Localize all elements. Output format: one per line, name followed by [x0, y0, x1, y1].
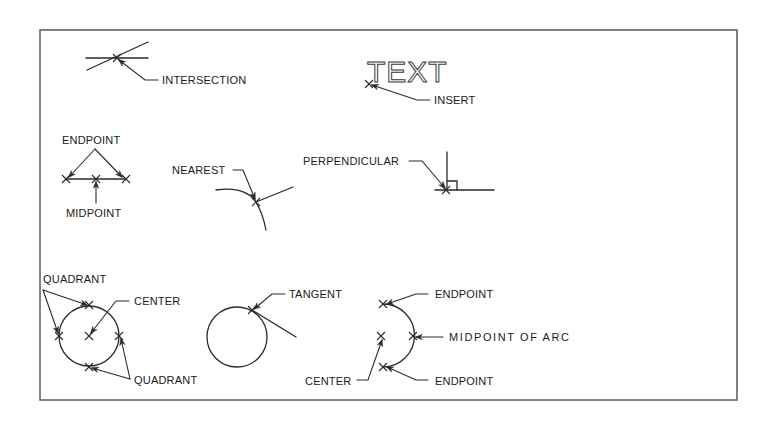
osnap-diagram: INTERSECTION TEXT INSERT ENDPOINT MIDPOI…	[0, 0, 775, 423]
nearest-label: NEAREST	[172, 164, 225, 176]
quadrant-leader-bottom	[92, 368, 130, 379]
insert-example: TEXT INSERT	[365, 55, 475, 106]
endpoint-leader-right	[95, 149, 122, 177]
arc-midpoint-marker-icon	[409, 332, 417, 340]
intersection-example: INTERSECTION	[86, 42, 246, 86]
nearest-arc	[216, 189, 266, 230]
center-leader	[91, 301, 129, 333]
intersection-leader	[119, 60, 158, 80]
nearest-line	[256, 187, 293, 202]
insert-sample-text: TEXT	[367, 55, 448, 88]
nearest-example: NEAREST	[172, 164, 293, 230]
tangent-example: TANGENT	[207, 288, 342, 367]
tangent-line	[252, 310, 296, 337]
perpendicular-leader	[409, 161, 445, 188]
tangent-leader	[254, 294, 285, 309]
arc-endpoint-top-label: ENDPOINT	[435, 288, 494, 300]
quadrant-leader-right	[121, 339, 130, 379]
endpoint-midpoint-example: ENDPOINT MIDPOINT	[62, 134, 130, 219]
quadrant-top-label: QUADRANT	[43, 273, 106, 285]
arc-center-label: CENTER	[305, 375, 351, 387]
arc-midpoint-label: MIDPOINT OF ARC	[449, 331, 571, 343]
endpoint-leader-left	[69, 149, 95, 177]
diagonal-line	[87, 42, 148, 70]
arc-example: ENDPOINT MIDPOINT OF ARC ENDPOINT CENTER	[305, 288, 571, 387]
nearest-marker-icon	[252, 198, 260, 206]
center-circle-label: CENTER	[134, 295, 180, 307]
arc	[383, 304, 415, 367]
quadrant-bottom-label: QUADRANT	[134, 374, 197, 386]
endpoint-line-label: ENDPOINT	[62, 134, 121, 146]
arc-endpoint-top-leader	[387, 294, 428, 304]
quadrant-leader-top	[43, 290, 87, 305]
perpendicular-example: PERPENDICULAR	[303, 152, 494, 194]
quadrant-center-example: QUADRANT CENTER QUADRANT	[43, 273, 197, 386]
nearest-leader	[233, 170, 255, 199]
quadrant-leader-left	[43, 290, 58, 333]
intersection-label: INTERSECTION	[162, 74, 246, 86]
midpoint-line-label: MIDPOINT	[66, 207, 121, 219]
perpendicular-label: PERPENDICULAR	[303, 155, 399, 167]
tangent-label: TANGENT	[289, 288, 342, 300]
arc-endpoint-bottom-label: ENDPOINT	[435, 375, 494, 387]
tangent-circle	[207, 307, 267, 367]
arc-endpoint-bottom-leader	[387, 367, 428, 380]
insert-label: INSERT	[434, 94, 475, 106]
center-marker-icon	[85, 332, 93, 340]
arc-center-leader	[357, 340, 382, 380]
right-angle-symbol	[447, 181, 457, 190]
arc-center-marker-icon	[377, 332, 385, 340]
